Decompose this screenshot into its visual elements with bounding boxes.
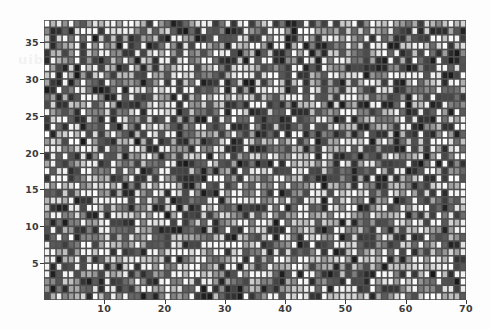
y-tick-label: 20 xyxy=(25,147,39,158)
y-tick-label: 30 xyxy=(25,73,39,84)
x-tick-label: 50 xyxy=(339,303,353,314)
y-tick-mark xyxy=(40,189,44,190)
y-tick-mark xyxy=(40,79,44,80)
x-tick-mark xyxy=(104,300,105,304)
plot-area xyxy=(44,20,466,300)
y-tick-label: 10 xyxy=(25,221,39,232)
x-tick-label: 70 xyxy=(459,303,473,314)
x-tick-mark xyxy=(165,300,166,304)
heatmap-canvas xyxy=(44,20,466,300)
x-tick-label: 60 xyxy=(399,303,413,314)
x-tick-label: 40 xyxy=(278,303,292,314)
x-tick-label: 20 xyxy=(158,303,172,314)
y-tick-mark xyxy=(40,153,44,154)
y-tick-mark xyxy=(40,42,44,43)
x-tick-label: 30 xyxy=(218,303,232,314)
y-tick-label: 5 xyxy=(32,258,39,269)
y-tick-mark xyxy=(40,226,44,227)
y-tick-mark xyxy=(40,116,44,117)
x-tick-mark xyxy=(285,300,286,304)
x-tick-mark xyxy=(225,300,226,304)
y-tick-label: 15 xyxy=(25,184,39,195)
x-tick-label: 10 xyxy=(97,303,111,314)
heatmap-figure: uib 5101520253035 10203040506070 xyxy=(0,0,491,329)
y-tick-mark xyxy=(40,263,44,264)
x-tick-mark xyxy=(406,300,407,304)
x-tick-mark xyxy=(466,300,467,304)
y-tick-label: 35 xyxy=(25,37,39,48)
y-tick-label: 25 xyxy=(25,110,39,121)
y-axis: 5101520253035 xyxy=(0,0,39,329)
x-tick-mark xyxy=(345,300,346,304)
